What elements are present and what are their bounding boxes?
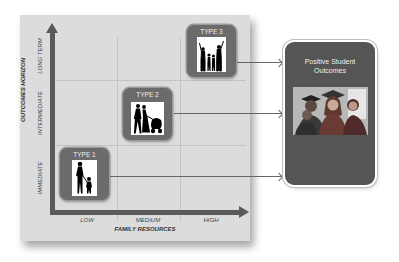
grid-line-horizontal [56, 145, 246, 146]
graduates-photo [293, 87, 368, 135]
outcome-title: Positive Student Outcomes [285, 57, 375, 75]
grid-line-horizontal [56, 80, 246, 81]
grid-line-vertical [180, 37, 181, 221]
type-1-label: TYPE 1 [60, 151, 109, 158]
arrowhead-icon [275, 109, 283, 117]
type-2-label: TYPE 2 [123, 91, 172, 98]
y-axis-arrowhead-icon [46, 23, 58, 33]
x-axis-line [50, 210, 240, 215]
y-tick-long-term: LONG TERM [37, 24, 43, 88]
couple-with-stroller-silhouette-icon [131, 102, 164, 135]
type-2-box: TYPE 2 [123, 88, 172, 140]
y-axis-line [50, 31, 55, 215]
family-celebrating-silhouette-icon [197, 37, 226, 72]
type-3-label: TYPE 3 [187, 28, 236, 35]
y-tick-immediate: IMMEDIATE [37, 146, 43, 210]
framework-panel: LOW MEDIUM HIGH FAMILY RESOURCES IMMEDIA… [20, 15, 250, 241]
x-tick-medium: MEDIUM [118, 217, 178, 223]
y-tick-intermediate: INTERMEDIATE [37, 81, 43, 145]
parent-child-silhouette-icon [72, 160, 97, 196]
type-1-box: TYPE 1 [60, 148, 109, 200]
x-tick-high: HIGH [181, 217, 241, 223]
x-tick-low: LOW [57, 217, 117, 223]
x-axis-title: FAMILY RESOURCES [80, 226, 210, 232]
y-axis-title: OUTCOMES HORIZON [20, 25, 26, 155]
outcome-title-line-1: Positive Student [285, 57, 375, 66]
positive-outcomes-box: Positive Student Outcomes [285, 42, 375, 185]
outcome-title-line-2: Outcomes [285, 66, 375, 75]
type-3-box: TYPE 3 [187, 25, 236, 77]
type-1-connector [110, 176, 282, 177]
grid-line-vertical [117, 37, 118, 221]
arrowhead-icon [275, 172, 283, 180]
arrowhead-icon [275, 58, 283, 66]
type-2-connector [174, 113, 282, 114]
